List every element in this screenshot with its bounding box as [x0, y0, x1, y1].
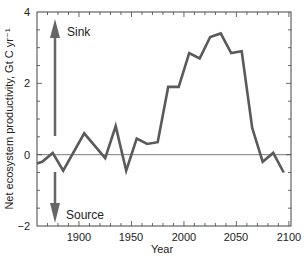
- x-tick-1950: 1950: [119, 231, 143, 243]
- axis-ticks: [37, 12, 291, 226]
- y-axis-title: Net ecosystem productivity, Gt C yr⁻¹: [3, 28, 15, 210]
- x-tick-1900: 1900: [67, 231, 91, 243]
- x-tick-2100: 2100: [277, 231, 301, 243]
- x-tick-2000: 2000: [172, 231, 196, 243]
- sink-arrow-icon: [50, 19, 60, 38]
- y-tick-2: 2: [24, 77, 30, 89]
- x-tick-2050: 2050: [224, 231, 248, 243]
- y-tick-4: 4: [24, 6, 30, 18]
- y-tick-0: 0: [24, 149, 30, 161]
- y-tick-neg2: −2: [17, 220, 30, 232]
- source-arrow-icon: [50, 203, 60, 223]
- chart: 4 2 0 −2 1900 1950 2000 2050 2100 Year N…: [0, 0, 308, 260]
- x-axis-title: Year: [151, 243, 174, 255]
- data-series-line: [37, 33, 284, 172]
- sink-label: Sink: [67, 25, 91, 39]
- source-label: Source: [66, 208, 104, 222]
- plot-frame: [37, 12, 291, 226]
